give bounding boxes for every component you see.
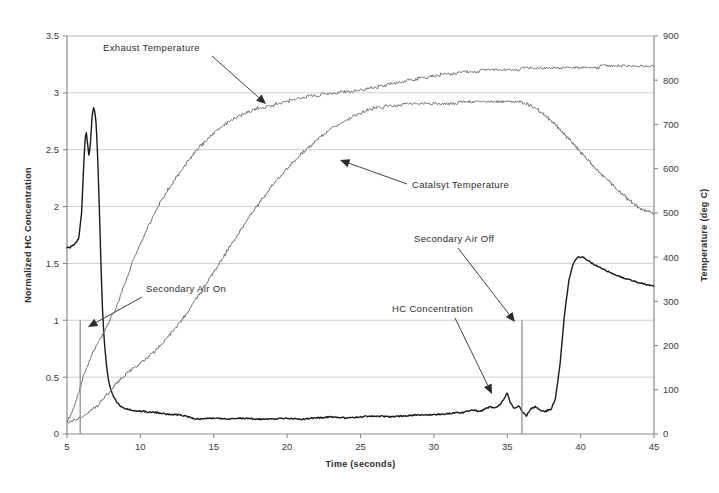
- x-axis-tick-label: 15: [208, 441, 219, 452]
- y-axis-right-title: Temperature (deg C): [699, 188, 709, 281]
- x-axis-title: Time (seconds): [325, 459, 395, 469]
- y-axis-right-tick-label: 200: [663, 340, 679, 351]
- axis-lines: [67, 36, 654, 434]
- y-axis-left-title: Normalized HC Concentration: [23, 167, 33, 303]
- y-axis-left-tick-label: 0: [54, 428, 59, 439]
- series-line-exhaust-temperature: [67, 65, 654, 422]
- series-line-catalsyt-temperature: [67, 101, 654, 423]
- annotation-arrowhead-catalsyt-temperature: [340, 159, 350, 167]
- y-axis-right-tick-label: 100: [663, 384, 679, 395]
- data-series: [67, 65, 654, 423]
- annotation-leader-catalsyt-temperature: [349, 163, 407, 184]
- annotation-label-hc-concentration: HC Concentration: [392, 303, 473, 314]
- x-axis-tick-label: 45: [649, 441, 660, 452]
- y-axis-left-tick-label: 3.5: [46, 30, 59, 41]
- annotation-label-exhaust-temperature: Exhaust Temperature: [103, 42, 200, 53]
- y-axis-right-tick-label: 400: [663, 252, 679, 263]
- y-axis-right-tick-label: 700: [663, 119, 679, 130]
- y-axis-right-tick-label: 300: [663, 296, 679, 307]
- gridlines: [67, 36, 654, 377]
- x-axis-tick-label: 20: [282, 441, 293, 452]
- annotation-leader-exhaust-temperature: [212, 56, 259, 98]
- axis-ticks: [63, 36, 658, 438]
- annotation-label-catalsyt-temperature: Catalsyt Temperature: [412, 179, 509, 190]
- y-axis-left-tick-label: 2: [54, 201, 59, 212]
- y-axis-right-tick-label: 800: [663, 75, 679, 86]
- annotation-label-secondary-air-off: Secondary Air Off: [414, 233, 494, 244]
- x-axis-tick-label: 5: [64, 441, 69, 452]
- x-axis-tick-label: 25: [355, 441, 366, 452]
- annotation-leader-hc-concentration: [455, 318, 488, 385]
- chart-figure: 00.511.522.533.5010020030040050060070080…: [0, 0, 719, 493]
- x-axis-tick-label: 10: [135, 441, 146, 452]
- x-axis-tick-label: 30: [429, 441, 440, 452]
- y-axis-left-tick-label: 0.5: [46, 372, 59, 383]
- x-axis-tick-label: 40: [575, 441, 586, 452]
- y-axis-right-tick-label: 0: [663, 428, 668, 439]
- y-axis-right-tick-label: 500: [663, 207, 679, 218]
- x-axis-tick-label: 35: [502, 441, 513, 452]
- y-axis-left-tick-label: 2.5: [46, 144, 59, 155]
- y-axis-right-tick-label: 600: [663, 163, 679, 174]
- axis-tick-labels: 00.511.522.533.5010020030040050060070080…: [46, 30, 679, 452]
- y-axis-left-tick-label: 3: [54, 87, 59, 98]
- y-axis-left-tick-label: 1: [54, 315, 59, 326]
- y-axis-right-tick-label: 900: [663, 30, 679, 41]
- chart-canvas: 00.511.522.533.5010020030040050060070080…: [0, 0, 719, 493]
- annotation-label-secondary-air-on: Secondary Air On: [146, 283, 226, 294]
- y-axis-left-tick-label: 1.5: [46, 258, 59, 269]
